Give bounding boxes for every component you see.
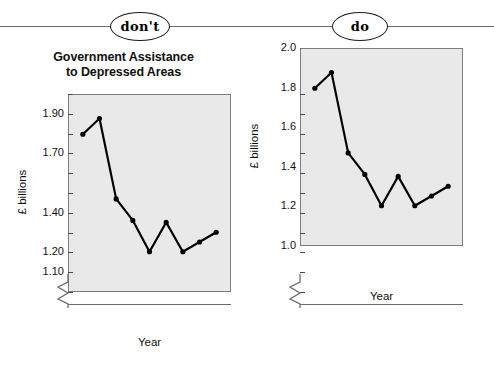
data-point-marker (114, 196, 119, 201)
y-tick-mark (68, 233, 73, 234)
axis-break-icon (287, 274, 309, 308)
line-series-dont (69, 95, 230, 291)
do-badge-label: do (351, 20, 370, 33)
y-tick-mark (300, 193, 305, 194)
y-tick-label: 1.90 (43, 108, 64, 119)
y-tick-label: 1.4 (281, 161, 296, 172)
data-point-marker (412, 203, 417, 208)
y-tick-mark (68, 193, 73, 194)
chart-title-dont: Government Assistance to Depressed Areas (0, 50, 247, 80)
banner-rule-right (386, 26, 494, 27)
data-point-marker (147, 249, 152, 254)
y-tick-mark (68, 173, 73, 174)
data-point-marker (164, 220, 169, 225)
axis-break-icon (55, 274, 77, 308)
banner-rule-left (0, 26, 112, 27)
y-axis-tick-labels-dont: 1.901.701.401.201.10 (22, 94, 64, 292)
y-tick-mark (300, 94, 305, 95)
chart-panel-dont: Government Assistance to Depressed Areas… (0, 46, 247, 369)
y-tick-label: 1.0 (281, 240, 296, 251)
data-point-marker (214, 230, 219, 235)
data-point-marker (130, 218, 135, 223)
y-axis-tick-marks (300, 94, 306, 292)
y-axis-tick-marks (68, 94, 74, 292)
data-point-marker (329, 70, 334, 75)
dont-badge-label: don't (120, 20, 159, 33)
y-tick-mark (300, 213, 305, 214)
y-tick-label: 1.20 (43, 246, 64, 257)
y-tick-mark (68, 213, 73, 214)
data-point-marker (346, 150, 351, 155)
series-line (83, 119, 216, 252)
banner-rule-middle (168, 26, 334, 27)
y-tick-label: 2.0 (281, 42, 296, 53)
y-tick-mark (300, 114, 305, 115)
x-axis-line (300, 304, 463, 305)
x-axis-line (68, 304, 231, 305)
y-tick-mark (300, 252, 305, 253)
chart-title-dont-line2: to Depressed Areas (0, 65, 247, 80)
data-point-marker (446, 184, 451, 189)
data-point-marker (429, 193, 434, 198)
series-line (315, 73, 448, 206)
y-tick-mark (300, 173, 305, 174)
dont-badge: don't (110, 12, 170, 41)
data-point-marker (312, 86, 317, 91)
chart-title-dont-line1: Government Assistance (53, 50, 194, 64)
data-point-marker (97, 116, 102, 121)
do-badge: do (332, 12, 388, 41)
y-tick-mark (300, 153, 305, 154)
data-point-marker (180, 249, 185, 254)
data-point-marker (396, 174, 401, 179)
y-axis-tick-labels-do: 2.01.81.61.41.21.0 (254, 48, 296, 246)
y-tick-mark (68, 94, 73, 95)
data-point-marker (362, 172, 367, 177)
data-point-marker (80, 132, 85, 137)
x-axis-title-dont: Year (68, 336, 231, 348)
y-tick-mark (300, 233, 305, 234)
comparison-banner: don't do (0, 0, 494, 44)
y-tick-mark (68, 114, 73, 115)
y-tick-mark (68, 134, 73, 135)
y-tick-label: 1.2 (281, 200, 296, 211)
y-tick-label: 1.70 (43, 147, 64, 158)
y-tick-mark (68, 153, 73, 154)
line-series-do (301, 49, 462, 245)
y-tick-label: 1.40 (43, 207, 64, 218)
x-axis-title-do: Year (300, 290, 463, 302)
y-tick-mark (300, 134, 305, 135)
plot-area-do (300, 48, 463, 246)
y-tick-label: 1.6 (281, 121, 296, 132)
data-point-marker (379, 203, 384, 208)
plot-area-dont (68, 94, 231, 292)
y-tick-mark (68, 252, 73, 253)
data-point-marker (197, 239, 202, 244)
y-tick-label: 1.8 (281, 82, 296, 93)
